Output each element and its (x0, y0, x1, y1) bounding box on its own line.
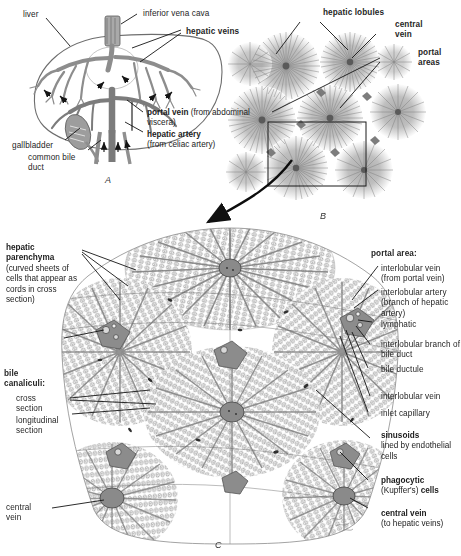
panel-letter-c: C (215, 540, 222, 550)
label-lymphatic: lymphatic (381, 320, 416, 330)
label-sinusoids: sinusoids lined by endothelial cells (381, 431, 461, 462)
label-central-vein-c-right: central vein (to hepatic veins) (381, 509, 461, 530)
label-interlobular-artery: interlobular artery (branch of hepatic a… (381, 288, 461, 319)
label-inlet-capillary: inlet capillary (381, 409, 430, 419)
panel-letter-a: A (105, 175, 111, 185)
label-phagocytic-kupffer: (Kupffer's) (381, 486, 421, 495)
label-gallbladder: gallbladder (12, 141, 53, 151)
label-liver: liver (23, 10, 39, 20)
label-bile-ductule: bile ductule (381, 365, 424, 375)
label-central-vein-c-right-detail: (to hepatic veins) (381, 519, 443, 528)
label-phagocytic-cells: phagocytic (Kupffer's) cells (381, 476, 461, 497)
label-interlobular-vein: interlobular vein (381, 392, 441, 402)
label-hepatic-parenchyma: hepatic parenchyma (curved sheets of cel… (6, 243, 82, 305)
label-central-vein-c-right-title: central vein (381, 509, 427, 518)
label-inferior-vena-cava: inferior vena cava (143, 9, 209, 19)
label-common-bile-duct: common bile duct (28, 153, 86, 174)
label-hepatic-parenchyma-detail: (curved sheets of cells that appear as c… (6, 264, 77, 304)
label-phagocytic-title: phagocytic (381, 476, 424, 485)
label-portal-vein: portal vein (from abdominal viscera) (147, 108, 259, 129)
label-portal-areas: portal areas (418, 48, 458, 69)
label-interlobular-branch-of-bile-duct: interlobular branch of bile duct (381, 340, 461, 361)
label-portal-area: portal area: (371, 249, 417, 259)
label-hepatic-lobules: hepatic lobules (323, 8, 384, 18)
panel-letter-b: B (320, 211, 326, 221)
label-hepatic-artery-title: hepatic artery (147, 130, 201, 139)
label-portal-vein-title: portal vein (147, 108, 188, 117)
label-central-vein-c-left: central vein (6, 503, 40, 524)
label-central-vein-b: central vein (395, 20, 435, 41)
label-bile-canaliculi: bile canaliculi: (4, 369, 62, 390)
label-sinusoids-detail: lined by endothelial cells (381, 441, 451, 460)
label-hepatic-artery: hepatic artery (from celiac artery) (147, 130, 237, 151)
liver-anatomy-figure: liver inferior vena cava hepatic veins p… (0, 0, 461, 556)
label-phagocytic-cells-word: cells (421, 486, 439, 495)
label-sinusoids-title: sinusoids (381, 431, 419, 440)
panel-c-artwork (46, 206, 412, 554)
label-bile-canaliculi-longitudinal-section: longitudinal section (16, 416, 72, 437)
label-hepatic-veins: hepatic veins (186, 27, 239, 37)
label-hepatic-artery-sub: (from celiac artery) (147, 140, 215, 149)
label-hepatic-parenchyma-title: hepatic parenchyma (6, 243, 54, 262)
label-bile-canaliculi-cross-section: cross section (16, 394, 58, 415)
label-interlobular-vein-from-portal-vein: interlobular vein (from portal vein) (381, 264, 461, 285)
